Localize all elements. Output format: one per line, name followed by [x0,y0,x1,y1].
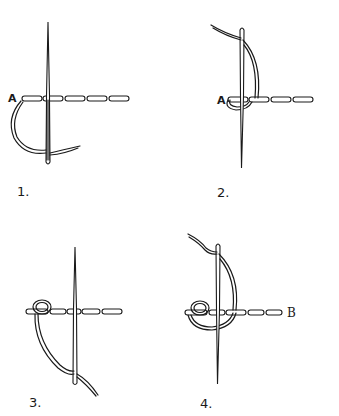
stitch [249,97,269,102]
panel-2: A 2. [211,25,313,200]
needle [46,22,50,164]
stitch [228,97,248,102]
thread [35,314,98,396]
stitch [82,309,100,314]
stitch [271,97,291,102]
needle [240,28,244,168]
step-label: 3. [29,395,41,410]
step-label: 4. [200,396,212,411]
step-label: 1. [17,184,29,199]
stitch [248,310,264,315]
needle [216,244,220,384]
stitch [102,309,122,314]
point-label-a: A [217,94,226,107]
stitch [65,96,85,101]
panel-1: A 1. [8,22,129,199]
thread [188,234,237,310]
stitch-row [22,96,129,101]
stitch [266,310,282,315]
point-label-a: A [8,92,17,105]
stitch [109,96,129,101]
stitch [50,309,66,314]
stitch [87,96,107,101]
stitch [293,97,313,102]
knot [191,301,209,315]
point-label-b: B [287,306,296,320]
panel-4: B 4. [185,234,296,411]
stitch [22,96,42,101]
needle [73,247,77,385]
knot [33,300,51,314]
thread [211,25,259,98]
step-label: 2. [217,185,229,200]
stitch-diagram: A 1. A 2. [0,0,339,416]
panel-3: 3. [26,247,122,410]
